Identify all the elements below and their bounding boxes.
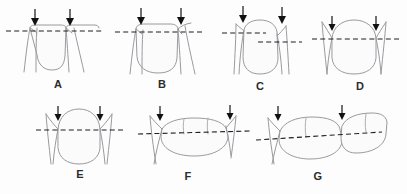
root-right-outer — [381, 22, 386, 74]
panel-b-diagram — [113, 6, 207, 78]
tooth-right-crown — [66, 25, 99, 28]
contact-arrow-left — [137, 8, 145, 25]
root-right-inner — [376, 38, 381, 74]
contact-arrow-right — [373, 16, 380, 31]
contact-arrow-right — [97, 106, 104, 121]
panel-g-diagram — [254, 104, 388, 170]
panel-e-diagram — [34, 102, 126, 168]
contact-arrow-right — [339, 105, 346, 120]
contact-arrow-left — [239, 6, 247, 23]
posterior-segment — [161, 118, 228, 156]
contact-arrow-right — [278, 7, 286, 24]
root-right-outer — [286, 26, 289, 74]
root-right-outer — [107, 114, 112, 164]
panel-label-a: A — [46, 78, 70, 90]
adjacent-right-crown — [277, 26, 286, 36]
panel-label-c: C — [248, 80, 272, 92]
contact-arrow-left — [157, 106, 164, 121]
root-left-inner — [327, 38, 332, 74]
contact-arrow-right — [66, 9, 74, 26]
panel-c — [214, 4, 306, 80]
panel-label-d: D — [348, 80, 372, 92]
contact-arrow-left — [55, 106, 62, 121]
panel-label-b: B — [150, 78, 174, 90]
panel-label-f: F — [176, 170, 200, 182]
root-right-outer — [231, 116, 236, 158]
root-left-outer — [234, 24, 236, 74]
panel-label-e: E — [68, 168, 92, 180]
figure-root: A B — [0, 0, 407, 194]
root-right-outer — [185, 26, 195, 74]
panel-b — [113, 6, 207, 78]
molar-first — [279, 117, 342, 159]
root-left-inner — [154, 129, 162, 164]
root-right-inner — [100, 129, 105, 164]
root-left-inner — [53, 129, 58, 164]
panel-g — [254, 104, 388, 170]
tooth-central — [332, 20, 376, 74]
panel-label-g: G — [306, 170, 330, 182]
panel-d-diagram — [310, 10, 402, 80]
panel-e — [34, 102, 126, 168]
panel-f-diagram — [136, 104, 252, 170]
root-left-inner — [272, 131, 280, 164]
root-left-outer — [46, 114, 51, 164]
root-right-inner — [178, 29, 181, 74]
panel-a-diagram — [4, 6, 108, 78]
root-right-inner — [66, 28, 69, 72]
root-left-outer — [130, 29, 136, 74]
tooth-central — [58, 109, 100, 164]
panel-a — [4, 6, 108, 78]
contact-arrow-left — [329, 16, 336, 31]
panel-f — [136, 104, 252, 170]
contact-arrow-right — [177, 8, 185, 25]
contact-arrow-right — [227, 105, 234, 120]
tooth-central — [243, 20, 278, 74]
root-right-outer — [74, 28, 84, 72]
contact-arrow-left — [275, 106, 282, 121]
root-left-outer — [322, 22, 327, 74]
root-left-outer — [24, 28, 30, 72]
adjacent-left-crown — [236, 24, 244, 31]
panel-c-diagram — [214, 4, 306, 80]
contact-arrow-left — [31, 9, 39, 26]
panel-d — [310, 10, 402, 80]
